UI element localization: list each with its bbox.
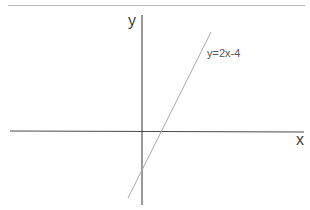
graph-canvas: [0, 0, 310, 210]
x-axis: [10, 131, 304, 132]
function-line: [128, 32, 211, 198]
x-axis-label: x: [296, 131, 304, 149]
y-axis-label: y: [128, 12, 136, 30]
equation-label: y=2x-4: [207, 47, 240, 59]
